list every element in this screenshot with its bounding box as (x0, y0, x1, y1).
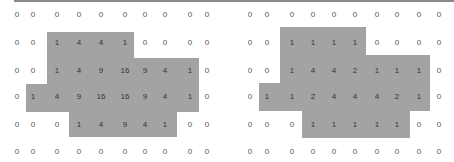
grid-cell: 0 (257, 145, 277, 159)
grid-cell: 1 (282, 64, 302, 78)
grid-cell: 0 (345, 145, 365, 159)
grid-cell: 0 (429, 145, 449, 159)
grid-cell: 4 (324, 64, 344, 78)
grid-cell: 0 (409, 8, 429, 22)
grid-cell: 1 (387, 118, 407, 132)
grid-cell: 4 (155, 90, 175, 104)
grid-cell: 0 (345, 8, 365, 22)
grid-cell: 0 (115, 145, 135, 159)
grid-cell: 0 (23, 64, 43, 78)
grid-cell: 2 (303, 90, 323, 104)
grid-cell: 1 (387, 64, 407, 78)
grid-cell: 0 (197, 36, 217, 50)
grid-cell: 1 (409, 64, 429, 78)
grid-cell: 16 (115, 90, 135, 104)
grid-cell: 0 (367, 8, 387, 22)
grid-cell: 0 (257, 118, 277, 132)
grid-cell: 0 (429, 118, 449, 132)
grid-cell: 0 (155, 36, 175, 50)
grid-cell: 1 (324, 118, 344, 132)
grid-cell: 0 (429, 64, 449, 78)
grid-cell: 16 (91, 90, 111, 104)
grid-cell: 1 (155, 118, 175, 132)
grid-cell: 1 (47, 64, 67, 78)
grid-cell: 0 (303, 8, 323, 22)
grid-cell: 4 (367, 90, 387, 104)
grid-cell: 9 (115, 118, 135, 132)
grid-cell: 0 (409, 118, 429, 132)
grid-cell: 0 (324, 8, 344, 22)
grid-cell: 0 (23, 145, 43, 159)
grid-cell: 0 (257, 64, 277, 78)
grid-cell: 4 (47, 90, 67, 104)
grid-cell: 0 (23, 36, 43, 50)
grid-cell: 0 (155, 8, 175, 22)
grid-cell: 0 (197, 145, 217, 159)
grid-cell: 0 (387, 145, 407, 159)
grid-cell: 0 (197, 118, 217, 132)
grid-right: 0000000000001111000000144211100112444210… (227, 0, 454, 162)
grid-cell: 0 (303, 145, 323, 159)
grid-cell: 0 (387, 8, 407, 22)
grid-cell: 0 (115, 8, 135, 22)
grid-cell: 9 (91, 64, 111, 78)
grid-cell: 0 (23, 118, 43, 132)
grid-cell: 9 (135, 64, 155, 78)
grid-cell: 0 (23, 8, 43, 22)
grid-cell: 2 (345, 64, 365, 78)
grid-left: 0000000000001441000000149169410014916169… (0, 0, 227, 162)
grid-cell: 0 (197, 90, 217, 104)
grid-cell: 0 (257, 8, 277, 22)
grid-cell: 1 (303, 36, 323, 50)
grid-cell: 1 (367, 64, 387, 78)
grid-cell: 0 (69, 8, 89, 22)
grid-cell: 1 (409, 90, 429, 104)
grid-cell: 0 (387, 36, 407, 50)
grid-cell: 0 (409, 145, 429, 159)
grid-cell: 1 (23, 90, 43, 104)
grid-cell: 1 (303, 118, 323, 132)
grid-cell: 0 (155, 145, 175, 159)
grid-cell: 4 (91, 118, 111, 132)
grid-cell: 4 (324, 90, 344, 104)
grid-cell: 1 (324, 36, 344, 50)
grid-cell: 9 (135, 90, 155, 104)
grid-cell: 0 (47, 145, 67, 159)
grid-cell: 1 (115, 36, 135, 50)
grid-cell: 0 (409, 36, 429, 50)
grid-cell: 1 (282, 90, 302, 104)
grid-cell: 0 (324, 145, 344, 159)
grid-cell: 4 (69, 36, 89, 50)
grid-cell: 1 (47, 36, 67, 50)
grid-cell: 0 (367, 36, 387, 50)
grid-cell: 1 (282, 36, 302, 50)
grid-cell: 1 (345, 118, 365, 132)
grid-cell: 0 (429, 36, 449, 50)
grid-cell: 1 (345, 36, 365, 50)
grid-cell: 0 (429, 90, 449, 104)
grid-cell: 0 (282, 145, 302, 159)
grid-cell: 4 (91, 36, 111, 50)
grid-cell: 4 (303, 64, 323, 78)
grid-cell: 4 (69, 64, 89, 78)
grid-cell: 4 (345, 90, 365, 104)
grid-cell: 16 (115, 64, 135, 78)
grid-cell: 2 (387, 90, 407, 104)
grid-cell: 0 (91, 145, 111, 159)
grid-cell: 0 (91, 8, 111, 22)
grid-cell: 1 (367, 118, 387, 132)
grid-cell: 0 (69, 145, 89, 159)
grid-cell: 0 (367, 145, 387, 159)
grid-cell: 9 (69, 90, 89, 104)
grid-cell: 0 (135, 36, 155, 50)
grid-cell: 0 (47, 118, 67, 132)
grid-cell: 0 (135, 8, 155, 22)
grid-cell: 0 (197, 64, 217, 78)
grid-cell: 0 (429, 8, 449, 22)
grid-cell: 4 (155, 64, 175, 78)
grid-cell: 1 (257, 90, 277, 104)
grid-cell: 0 (135, 145, 155, 159)
grid-cell: 1 (69, 118, 89, 132)
grid-cell: 0 (282, 8, 302, 22)
grid-cell: 0 (257, 36, 277, 50)
